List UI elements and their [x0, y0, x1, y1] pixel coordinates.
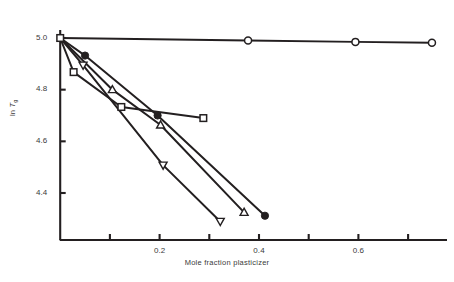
- data-point-open-square-series: [118, 104, 125, 111]
- x-axis-tick-label: 0.2: [150, 246, 170, 255]
- data-point-filled-circle-series: [154, 112, 161, 119]
- data-point-open-triangle-down-series: [216, 218, 224, 225]
- y-axis-label-prefix: ln: [8, 107, 17, 116]
- series-line-open-square-series: [60, 38, 203, 118]
- y-axis-tick-label: 4.6: [36, 136, 47, 145]
- x-axis-tick-label: 0.6: [348, 246, 368, 255]
- data-point-filled-circle-series: [261, 212, 268, 219]
- y-axis-label-subscript: g: [12, 99, 18, 102]
- chart-plot-area: [0, 0, 454, 282]
- x-axis-tick-label: 0.4: [249, 246, 269, 255]
- data-point-open-square-series: [57, 35, 64, 42]
- data-point-open-circle-series: [428, 39, 435, 46]
- y-axis-tick-label: 4.8: [36, 84, 47, 93]
- y-axis-label: ln Tg: [8, 56, 18, 116]
- data-point-open-circle-series: [352, 38, 359, 45]
- y-axis-tick-label: 5.0: [36, 33, 47, 42]
- y-axis-tick-label: 4.4: [36, 188, 47, 197]
- data-point-open-square-series: [70, 69, 77, 76]
- x-axis-label: Mole fraction plasticizer: [0, 258, 454, 267]
- chart-figure: ln Tg Mole fraction plasticizer 5.04.84.…: [0, 0, 454, 282]
- data-point-open-circle-series: [245, 37, 252, 44]
- data-point-filled-circle-series: [81, 52, 88, 59]
- y-axis-label-symbol: T: [8, 103, 17, 108]
- data-point-open-square-series: [200, 115, 207, 122]
- series-line-open-triangle-up-series: [60, 38, 244, 212]
